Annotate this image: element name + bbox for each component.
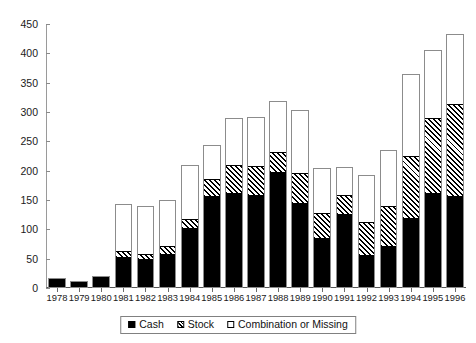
bar-segment-cash: [71, 282, 87, 287]
bar-stack-1978: [48, 278, 66, 288]
legend-label: Stock: [188, 319, 214, 330]
bar-stack-1986: [225, 118, 243, 288]
bar-segment-combo: [160, 201, 176, 246]
y-axis-tick-mark: [46, 24, 50, 25]
y-axis-tick-mark: [46, 53, 50, 54]
bar-segment-stock: [359, 222, 375, 257]
y-axis-tick-mark: [46, 288, 50, 289]
bar-segment-cash: [270, 173, 286, 287]
bar-segment-combo: [270, 102, 286, 152]
x-axis-tick-label-1981: 1981: [113, 293, 134, 302]
bar-segment-combo: [204, 146, 220, 179]
bar-segment-stock: [314, 213, 330, 239]
x-axis-tick-label-1994: 1994: [400, 293, 421, 302]
x-axis-tick-label-1980: 1980: [91, 293, 112, 302]
legend-item-cash: Cash: [128, 319, 164, 330]
bar-segment-combo: [403, 75, 419, 156]
bar-segment-stock: [337, 195, 353, 215]
bar-segment-combo: [292, 111, 308, 173]
y-axis-tick-mark: [46, 141, 50, 142]
bar-segment-combo: [425, 51, 441, 118]
y-axis-tick-mark: [46, 83, 50, 84]
x-axis-tick-label-1987: 1987: [246, 293, 267, 302]
bar-group: [424, 24, 442, 288]
x-axis-tick-label-1992: 1992: [356, 293, 377, 302]
legend-label: Combination or Missing: [238, 319, 348, 330]
bar-segment-combo: [116, 205, 132, 251]
x-axis-tick-label-1982: 1982: [135, 293, 156, 302]
bar-stack-1980: [92, 276, 110, 288]
bar-segment-cash: [381, 247, 397, 287]
x-axis-tick-label-1989: 1989: [290, 293, 311, 302]
bar-group: [313, 24, 331, 288]
bar-segment-cash: [403, 219, 419, 287]
bar-stack-1996: [446, 34, 464, 288]
bar-segment-cash: [182, 229, 198, 287]
bar-group: [446, 24, 464, 288]
bar-segment-cash: [204, 197, 220, 287]
legend-label: Cash: [139, 319, 164, 330]
bar-stack-1991: [336, 167, 354, 288]
y-axis-tick-label: 200: [20, 165, 38, 176]
bar-segment-cash: [447, 197, 463, 287]
y-axis-tick-label: 450: [20, 19, 38, 30]
bar-segment-stock: [160, 246, 176, 255]
bar-stack-1983: [159, 200, 177, 288]
bar-group: [402, 24, 420, 288]
bar-segment-stock: [116, 251, 132, 258]
y-axis: 050100150200250300350400450: [0, 0, 46, 312]
bar-segment-combo: [447, 35, 463, 104]
y-axis-tick-label: 350: [20, 77, 38, 88]
y-axis-tick-label: 100: [20, 224, 38, 235]
bar-stack-1990: [313, 168, 331, 288]
bar-stack-1982: [137, 206, 155, 288]
y-axis-tick-mark: [46, 200, 50, 201]
bar-group: [115, 24, 133, 288]
hatched-square-icon: [177, 321, 184, 328]
bar-stack-1988: [269, 101, 287, 288]
bar-group: [137, 24, 155, 288]
bar-segment-cash: [248, 196, 264, 287]
bar-segment-cash: [359, 256, 375, 287]
bar-group: [159, 24, 177, 288]
legend-item-combo: Combination or Missing: [227, 319, 348, 330]
x-axis-tick-label-1996: 1996: [445, 293, 466, 302]
bar-stack-1992: [358, 175, 376, 288]
bar-segment-combo: [182, 166, 198, 219]
y-axis-tick-mark: [46, 229, 50, 230]
bar-segment-stock: [248, 166, 264, 196]
bar-stack-1989: [291, 110, 309, 288]
bar-segment-combo: [314, 169, 330, 213]
bar-segment-stock: [182, 219, 198, 229]
bar-group: [291, 24, 309, 288]
y-axis-tick-label: 300: [20, 107, 38, 118]
bar-segment-cash: [314, 239, 330, 287]
bar-group: [269, 24, 287, 288]
bar-group: [225, 24, 243, 288]
bar-stack-1987: [247, 117, 265, 288]
bar-segment-stock: [447, 104, 463, 197]
bar-stack-1979: [70, 281, 88, 288]
bar-segment-cash: [226, 194, 242, 287]
bar-stack-1994: [402, 74, 420, 288]
bar-segment-combo: [226, 119, 242, 165]
bar-segment-stock: [226, 165, 242, 194]
x-axis-tick-label-1995: 1995: [422, 293, 443, 302]
bar-group: [358, 24, 376, 288]
y-axis-tick-label: 400: [20, 48, 38, 59]
y-axis-tick-label: 0: [32, 283, 38, 294]
bar-group: [247, 24, 265, 288]
bar-segment-cash: [49, 281, 65, 287]
y-axis-tick-label: 150: [20, 195, 38, 206]
bar-stack-1995: [424, 50, 442, 288]
bar-segment-combo: [381, 151, 397, 206]
y-axis-tick-label: 50: [26, 253, 38, 264]
white-square-icon: [227, 321, 234, 328]
bar-segment-stock: [425, 118, 441, 194]
bar-segment-cash: [138, 260, 154, 287]
x-axis-tick-label-1984: 1984: [179, 293, 200, 302]
legend-item-stock: Stock: [177, 319, 214, 330]
bar-segment-cash: [116, 258, 132, 287]
bar-stack-1985: [203, 145, 221, 288]
x-axis-tick-label-1993: 1993: [378, 293, 399, 302]
